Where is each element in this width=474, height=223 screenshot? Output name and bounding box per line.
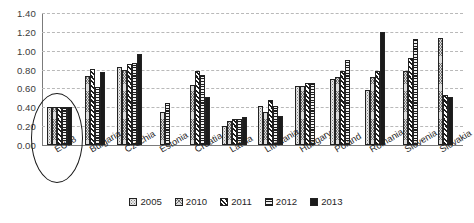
legend-label: 2013 (321, 196, 342, 207)
legend-item-2012[interactable]: 2012 (265, 196, 297, 207)
bar-group (358, 13, 393, 145)
bar (345, 60, 350, 145)
y-tick-label: 0.40 (0, 102, 36, 113)
x-axis-category-labels: EU28BulgariaCzechiaEstoniaCroatiaLatviaL… (42, 146, 463, 192)
bar-group (288, 13, 323, 145)
bar-group (42, 13, 77, 145)
bar-group (323, 13, 358, 145)
legend-label: 2010 (186, 196, 207, 207)
legend-label: 2011 (231, 196, 252, 207)
legend-swatch-icon (310, 198, 318, 206)
legend-swatch-icon (265, 198, 273, 206)
legend-item-2011[interactable]: 2011 (220, 196, 252, 207)
bar (100, 72, 105, 145)
y-tick-label: 0.80 (0, 64, 36, 75)
legend-label: 2005 (140, 196, 161, 207)
legend-swatch-icon (220, 198, 228, 206)
legend-item-2005[interactable]: 2005 (129, 196, 161, 207)
legend-item-2010[interactable]: 2010 (175, 196, 207, 207)
y-tick-label: 1.00 (0, 45, 36, 56)
y-tick-label: 1.20 (0, 26, 36, 37)
y-tick-label: 0.60 (0, 83, 36, 94)
bar (137, 54, 142, 145)
bar (413, 39, 418, 145)
y-tick-label: 0.20 (0, 121, 36, 132)
legend-swatch-icon (129, 198, 137, 206)
bar (380, 32, 385, 145)
bar-group (428, 13, 463, 145)
bar-group (77, 13, 112, 145)
legend-label: 2012 (276, 196, 297, 207)
bar-group (147, 13, 182, 145)
legend-item-2013[interactable]: 2013 (310, 196, 342, 207)
y-tick-label: 1.40 (0, 8, 36, 19)
bar-group (112, 13, 147, 145)
legend-swatch-icon (175, 198, 183, 206)
plot-area (42, 13, 463, 145)
bar-group (182, 13, 217, 145)
bar-group (253, 13, 288, 145)
bar-group (217, 13, 252, 145)
bar-group (393, 13, 428, 145)
chart-legend: 20052010201120122013 (0, 196, 472, 207)
y-tick-label: 0.00 (0, 140, 36, 151)
